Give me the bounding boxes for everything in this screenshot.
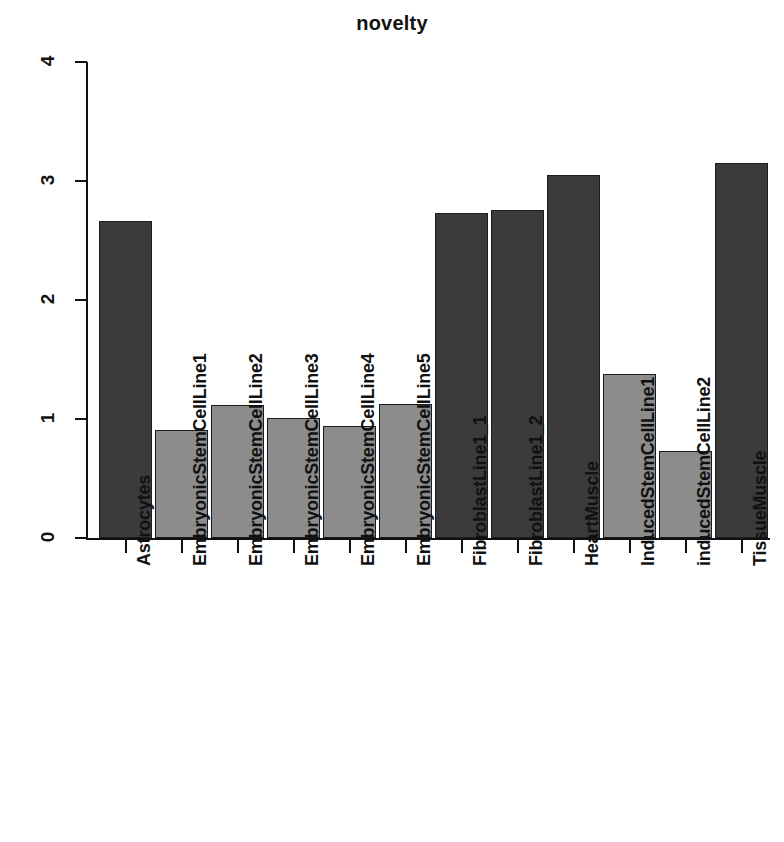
y-tick-mark [75,418,87,420]
x-tick-label: EmbryonicStemCellLine5 [414,353,435,566]
x-tick-mark [629,540,631,553]
x-tick-label: FibroblastLine1_2 [526,415,547,566]
x-tick-mark [181,540,183,553]
bar-chart: novelty 01234 AstrocytesEmbryonicStemCel… [0,0,784,842]
x-tick-label: EmbryonicStemCellLine4 [358,353,379,566]
x-tick-label: InducedStemCellLine1 [638,377,659,566]
y-tick-label: 4 [37,41,59,81]
y-tick-mark [75,180,87,182]
y-tick-mark [75,61,87,63]
x-tick-label: FibroblastLine1_1 [470,415,491,566]
x-tick-label: inducedStemCellLine2 [694,377,715,566]
x-tick-mark [573,540,575,553]
y-tick-label: 0 [37,517,59,557]
x-tick-label: Astrocytes [134,475,155,566]
x-tick-mark [293,540,295,553]
x-tick-label: EmbryonicStemCellLine1 [190,353,211,566]
x-tick-mark [349,540,351,553]
x-tick-label: EmbryonicStemCellLine2 [246,353,267,566]
y-tick-label: 2 [37,279,59,319]
x-tick-label: EmbryonicStemCellLine3 [302,353,323,566]
x-tick-mark [125,540,127,553]
plot-area: 01234 AstrocytesEmbryonicStemCellLine1Em… [0,0,784,842]
x-tick-mark [461,540,463,553]
x-tick-label: TissueMuscle [750,451,771,566]
y-tick-label: 1 [37,398,59,438]
x-tick-mark [517,540,519,553]
x-tick-mark [405,540,407,553]
x-tick-mark [685,540,687,553]
y-tick-label: 3 [37,160,59,200]
y-tick-mark [75,299,87,301]
x-tick-label: HeartMuscle [582,461,603,566]
x-tick-mark [741,540,743,553]
y-tick-mark [75,537,87,539]
x-tick-mark [237,540,239,553]
